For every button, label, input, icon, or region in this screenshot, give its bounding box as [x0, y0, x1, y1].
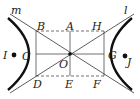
label-m: m	[11, 4, 21, 17]
hyperbola-diagram: m l B A H I C O G J D E F	[0, 0, 140, 99]
label-i: I	[2, 49, 8, 62]
label-o: O	[59, 58, 68, 71]
label-f: F	[92, 78, 101, 91]
label-c: C	[22, 50, 31, 63]
label-j: J	[125, 56, 132, 69]
label-a: A	[65, 20, 74, 33]
label-h: H	[91, 20, 102, 33]
label-e: E	[64, 78, 73, 91]
focus-point-i	[12, 53, 17, 58]
label-g: G	[108, 49, 117, 62]
label-b: B	[36, 20, 45, 33]
center-point-o	[68, 52, 72, 56]
label-d: D	[32, 78, 42, 91]
label-l: l	[124, 4, 128, 17]
